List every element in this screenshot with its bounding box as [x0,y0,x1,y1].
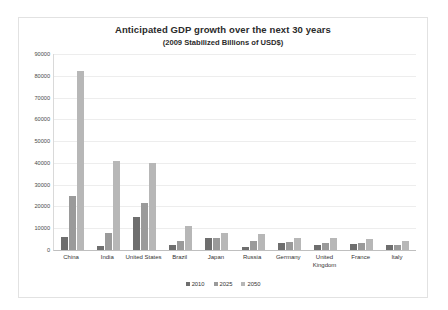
bar [322,243,329,250]
bar [221,233,228,250]
bar [177,241,184,250]
chart-legend: 201020252050 [19,281,427,287]
chart-title-block: Anticipated GDP growth over the next 30 … [19,24,427,48]
y-axis-tick-label: 50000 [34,138,50,144]
bar [314,245,321,250]
plot-area: 0100002000030000400005000060000700008000… [53,54,416,251]
bars-layer [54,54,416,250]
y-axis-tick-label: 90000 [34,51,50,57]
legend-item[interactable]: 2010 [186,281,205,287]
bar-group [380,54,416,250]
x-axis-category-label: France [343,253,379,261]
x-axis-category-label: Germany [270,253,306,261]
chart-subtitle: (2009 Stabilized Billions of USD$) [19,37,427,48]
bar-group [344,54,380,250]
y-axis-tick-label: 40000 [34,160,50,166]
legend-label: 2025 [220,281,233,287]
x-axis-category-label: Brazil [162,253,198,261]
chart-container: Anticipated GDP growth over the next 30 … [18,17,428,298]
y-axis-tick-label: 80000 [34,73,50,79]
bar-group [90,54,126,250]
bar [366,239,373,250]
bar-group [199,54,235,250]
bar-group [163,54,199,250]
bar-group [126,54,162,250]
x-axis-category-label: China [53,253,89,261]
y-axis-tick-label: 0 [47,247,50,253]
bar [97,246,104,250]
y-axis-tick-label: 20000 [34,203,50,209]
bar [149,163,156,250]
chart-title: Anticipated GDP growth over the next 30 … [19,24,427,36]
bar [61,237,68,250]
x-axis-category-label: India [89,253,125,261]
bar-group [271,54,307,250]
bar [77,71,84,250]
bar [330,238,337,250]
bar [113,161,120,250]
bar [141,203,148,250]
legend-swatch-icon [241,282,245,286]
y-axis-tick-label: 70000 [34,95,50,101]
bar-group [307,54,343,250]
x-axis-category-label: United Kingdom [306,253,342,269]
bar [105,233,112,250]
y-axis-tick-label: 60000 [34,116,50,122]
bar-group [235,54,271,250]
y-axis-tick-label: 30000 [34,182,50,188]
x-axis-labels: ChinaIndiaUnited StatesBrazilJapanRussia… [53,253,416,279]
legend-swatch-icon [186,282,190,286]
x-axis-category-label: Russia [234,253,270,261]
bar [278,243,285,250]
legend-label: 2050 [247,281,260,287]
legend-item[interactable]: 2025 [214,281,233,287]
legend-swatch-icon [214,282,218,286]
bar [402,241,409,250]
bar [386,245,393,250]
bar [213,238,220,250]
y-axis-tick-label: 10000 [34,225,50,231]
bar [350,244,357,250]
bar [286,242,293,250]
bar [250,241,257,250]
bar-group [54,54,90,250]
bar [258,234,265,250]
bar [294,238,301,250]
bar [205,238,212,250]
bar [133,217,140,250]
bar [69,196,76,250]
bar [394,245,401,250]
legend-item[interactable]: 2050 [241,281,260,287]
bar [242,247,249,250]
bar [358,243,365,250]
legend-label: 2010 [192,281,205,287]
x-axis-category-label: Japan [198,253,234,261]
bar [185,226,192,250]
x-axis-category-label: United States [125,253,161,261]
x-axis-category-label: Italy [379,253,415,261]
bar [169,245,176,250]
